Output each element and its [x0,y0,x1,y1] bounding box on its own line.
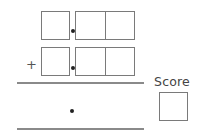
row2-tenths-box[interactable] [75,47,106,76]
answer-bottom-line [17,128,144,130]
answer-area[interactable] [17,85,144,127]
score-box [159,92,188,121]
plus-operator: + [26,58,37,71]
row1-ones-box[interactable] [41,11,70,40]
row2-hundredths-box[interactable] [105,47,135,76]
score-label: Score [154,75,190,89]
row2-ones-box[interactable] [41,47,70,76]
row1-tenths-box[interactable] [75,11,106,40]
sum-divider-line [17,82,144,84]
row1-hundredths-box[interactable] [105,11,135,40]
answer-decimal-point [70,109,74,113]
